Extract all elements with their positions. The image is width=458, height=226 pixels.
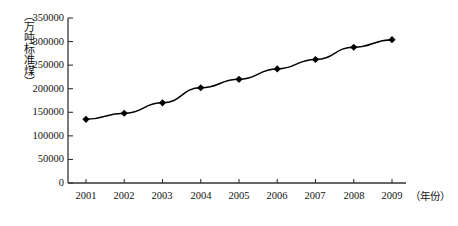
- series-markers: [82, 36, 395, 123]
- data-point-marker: [388, 36, 395, 43]
- line-chart: （万吨标准煤） 350000 300000 250000 200000 1500…: [0, 0, 458, 226]
- data-point-marker: [197, 84, 204, 91]
- plot-area: [0, 0, 458, 226]
- data-point-marker: [312, 56, 319, 63]
- data-point-marker: [121, 110, 128, 117]
- axis-lines: [68, 18, 406, 183]
- data-point-marker: [235, 76, 242, 83]
- data-point-marker: [274, 65, 281, 72]
- data-point-marker: [82, 116, 89, 123]
- data-point-marker: [159, 99, 166, 106]
- data-point-marker: [350, 44, 357, 51]
- y-axis-ticks: [68, 18, 73, 183]
